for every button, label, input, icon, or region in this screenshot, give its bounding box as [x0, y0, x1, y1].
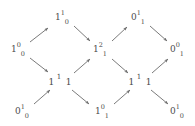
node-subscript: 1 [141, 19, 145, 27]
node-superscript: 1 [61, 9, 65, 17]
node-base: 1 [49, 77, 55, 87]
node-superscript: 1 [21, 103, 25, 111]
node-subscript: 0 [21, 51, 25, 59]
node-superscript: 2 [99, 41, 103, 49]
node-base: 0 [170, 106, 176, 116]
node-subscript: 0 [25, 113, 29, 121]
node-base: 1 [11, 44, 17, 54]
node-base: 0 [170, 44, 176, 54]
node-1-sup1-sub0: 110 [55, 11, 69, 24]
node-1-sup1-sub1-right: 111 [129, 78, 152, 87]
node-subscript: 1 [144, 77, 152, 87]
node-1-sup2-sub1: 121 [93, 43, 107, 56]
node-1-sup0-sub0: 100 [11, 43, 25, 56]
node-base: 0 [131, 12, 137, 22]
node-subscript: 1 [103, 51, 107, 59]
node-superscript: 1 [137, 9, 141, 17]
node-superscript: 1 [176, 103, 180, 111]
node-1-sup0-sub1: 101 [95, 105, 109, 118]
node-subscript: 1 [180, 51, 184, 59]
node-base: 1 [129, 77, 135, 87]
node-superscript: 0 [101, 103, 105, 111]
node-base: 0 [15, 106, 21, 116]
node-subscript: 0 [65, 19, 69, 27]
node-0-sup1-sub1: 011 [131, 11, 145, 24]
node-base: 1 [95, 106, 101, 116]
node-base: 1 [93, 44, 99, 54]
node-superscript: 1 [134, 73, 143, 81]
node-0-sup1-sub0-left: 010 [15, 105, 29, 118]
node-superscript: 0 [176, 41, 180, 49]
node-base: 1 [55, 12, 61, 22]
node-subscript: 1 [105, 113, 109, 121]
node-0-sup1-sub0-right: 010 [170, 105, 184, 118]
lattice-diagram: 110011100121001111111010101010 [0, 0, 195, 126]
node-subscript: 0 [180, 113, 184, 121]
node-subscript: 1 [64, 77, 72, 87]
node-superscript: 1 [54, 73, 63, 81]
node-1-sup1-sub1-left: 111 [49, 78, 72, 87]
node-superscript: 0 [17, 41, 21, 49]
node-0-sup0-sub1: 001 [170, 43, 184, 56]
node-layer: 110011100121001111111010101010 [0, 0, 195, 126]
